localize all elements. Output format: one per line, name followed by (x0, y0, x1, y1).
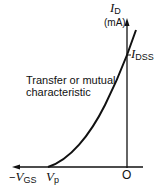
diagram-canvas (0, 0, 161, 196)
y-axis-label: ID (110, 2, 121, 15)
transfer-curve (48, 30, 136, 167)
y-axis-unit: (mA) (104, 17, 126, 29)
origin-label: O (122, 169, 131, 181)
idss-label: IDSS (131, 48, 154, 61)
pinch-off-label: Vp (46, 171, 59, 184)
x-axis-label: −VGS (9, 171, 36, 184)
curve-label-line1: Transfer or mutual (26, 74, 115, 86)
curve-label-line2: characteristic (26, 86, 91, 98)
